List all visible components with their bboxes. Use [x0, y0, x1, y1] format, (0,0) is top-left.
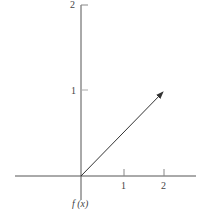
- x-tick-label-2: 2: [161, 181, 166, 191]
- axis-label-fx: f (x): [72, 199, 88, 209]
- figure: 2 1 1 2 f (x): [0, 0, 210, 222]
- y-tick-label-2: 2: [70, 0, 75, 10]
- vector-arrow: [81, 92, 163, 176]
- plot-area: [0, 0, 210, 222]
- y-tick-label-1: 1: [71, 86, 76, 96]
- x-tick-label-1: 1: [121, 181, 126, 191]
